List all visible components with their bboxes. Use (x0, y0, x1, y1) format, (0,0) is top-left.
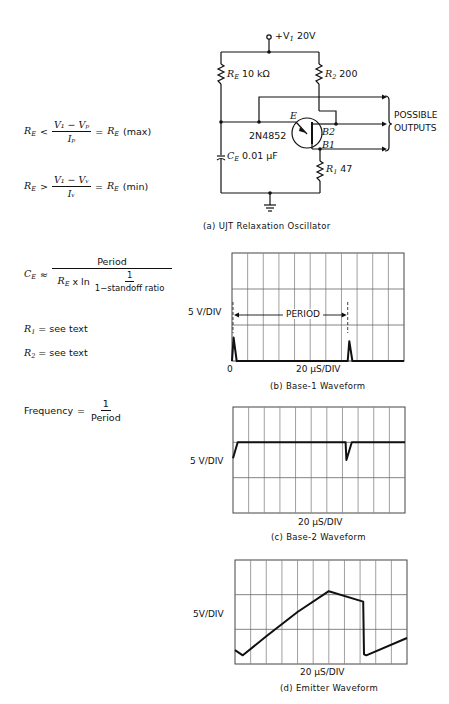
emitter-trace (235, 591, 407, 655)
emitter-ylabel: 5V/DIV (193, 609, 224, 619)
base2-trace (233, 442, 405, 460)
period-label: PERIOD (283, 309, 323, 319)
base1-caption: (b) Base-1 Waveform (270, 381, 365, 391)
emitter-xlabel: 20 μS/DIV (300, 667, 345, 677)
base2-xlabel: 20 μS/DIV (298, 517, 343, 527)
base1-xlabel: 20 μS/DIV (296, 364, 341, 374)
base1-ylabel: 5 V/DIV (188, 307, 222, 317)
oscilloscope-traces (0, 0, 449, 704)
base1-origin: 0 (227, 364, 233, 374)
emitter-caption: (d) Emitter Waveform (280, 683, 378, 693)
base2-ylabel: 5 V/DIV (190, 456, 224, 466)
base2-caption: (c) Base-2 Waveform (271, 532, 366, 542)
base1-trace (232, 338, 404, 361)
